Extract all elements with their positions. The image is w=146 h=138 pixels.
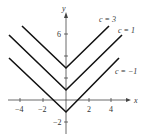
axes bbox=[8, 16, 126, 134]
x-tick-label: −4 bbox=[15, 105, 24, 114]
y-tick-label: 6 bbox=[57, 30, 61, 39]
y-tick-label: −2 bbox=[53, 118, 62, 127]
x-tick-label: 4 bbox=[109, 105, 113, 114]
curve-c-1 bbox=[9, 35, 122, 90]
annotation-c-minus-1: c = −1 bbox=[115, 67, 137, 76]
annotation-c-3: c = 3 bbox=[99, 15, 116, 24]
annotation-c-1: c = 1 bbox=[118, 26, 135, 35]
y-axis-label: y bbox=[61, 4, 66, 13]
x-axis-label: x bbox=[133, 96, 138, 105]
x-axis-arrow-icon bbox=[126, 98, 131, 102]
chart: x y −4 −2 2 4 6 −2 c = 3 c = 1 c = −1 bbox=[0, 0, 146, 138]
x-tick-label: −2 bbox=[38, 105, 47, 114]
x-tick-label: 2 bbox=[87, 105, 91, 114]
